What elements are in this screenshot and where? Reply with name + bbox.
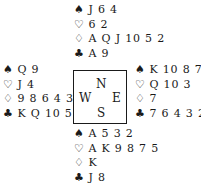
north-label: N xyxy=(96,78,107,90)
spade-icon: ♠ xyxy=(135,63,146,78)
south-diamonds: ♢ K xyxy=(74,156,159,171)
heart-icon: ♡ xyxy=(3,78,14,93)
diamond-icon: ♢ xyxy=(74,156,85,171)
east-hearts: ♡ Q 10 3 xyxy=(135,78,201,93)
south-hearts: ♡ A K 9 8 7 5 xyxy=(74,142,159,157)
north-hand: ♠ J 6 4 ♡ 6 2 ♢ A Q J 10 5 2 ♣ A 9 xyxy=(74,3,165,61)
diamond-icon: ♢ xyxy=(135,92,146,107)
heart-icon: ♡ xyxy=(74,142,85,157)
south-spades: ♠ A 5 3 2 xyxy=(74,127,159,142)
diamond-icon: ♢ xyxy=(3,92,14,107)
club-icon: ♣ xyxy=(135,107,146,122)
west-label: W xyxy=(79,92,91,104)
club-icon: ♣ xyxy=(74,47,85,62)
compass-box: N W E S xyxy=(73,70,127,124)
west-hearts: ♡ J 4 xyxy=(3,78,74,93)
west-diamonds: ♢ 9 8 6 4 3 xyxy=(3,92,74,107)
north-spades: ♠ J 6 4 xyxy=(74,3,165,18)
heart-icon: ♡ xyxy=(74,18,85,33)
diamond-icon: ♢ xyxy=(74,32,85,47)
club-icon: ♣ xyxy=(74,171,85,186)
spade-icon: ♠ xyxy=(74,3,85,18)
north-hearts: ♡ 6 2 xyxy=(74,18,165,33)
west-clubs: ♣ K Q 10 5 xyxy=(3,107,74,122)
east-hand: ♠ K 10 8 7 ♡ Q 10 3 ♢ 7 ♣ 7 6 4 3 2 xyxy=(135,63,201,121)
south-hand: ♠ A 5 3 2 ♡ A K 9 8 7 5 ♢ K ♣ J 8 xyxy=(74,127,159,185)
north-diamonds: ♢ A Q J 10 5 2 xyxy=(74,32,165,47)
east-label: E xyxy=(112,92,121,104)
east-spades: ♠ K 10 8 7 xyxy=(135,63,201,78)
west-hand: ♠ Q 9 ♡ J 4 ♢ 9 8 6 4 3 ♣ K Q 10 5 xyxy=(3,63,74,121)
club-icon: ♣ xyxy=(3,107,14,122)
south-clubs: ♣ J 8 xyxy=(74,171,159,186)
spade-icon: ♠ xyxy=(3,63,14,78)
spade-icon: ♠ xyxy=(74,127,85,142)
north-clubs: ♣ A 9 xyxy=(74,47,165,62)
west-spades: ♠ Q 9 xyxy=(3,63,74,78)
heart-icon: ♡ xyxy=(135,78,146,93)
south-label: S xyxy=(97,107,105,119)
east-clubs: ♣ 7 6 4 3 2 xyxy=(135,107,201,122)
east-diamonds: ♢ 7 xyxy=(135,92,201,107)
